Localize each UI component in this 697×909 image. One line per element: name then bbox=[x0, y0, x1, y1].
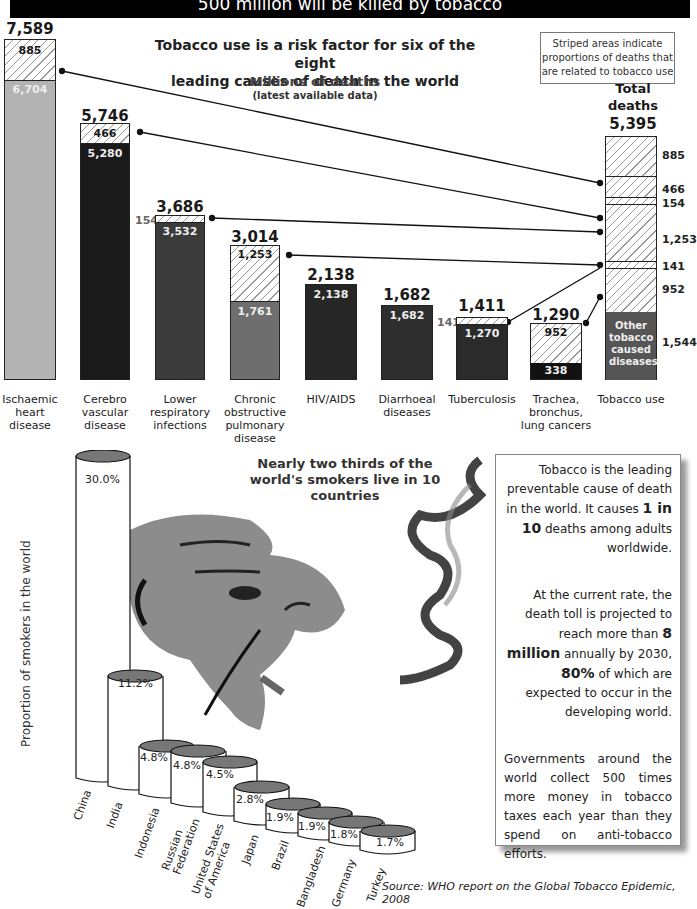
tobacco-seg-tuberculosis bbox=[606, 262, 656, 269]
category-label: Cerebro vascular disease bbox=[69, 393, 141, 432]
bar-cerebrovascular: 466 5,280 bbox=[80, 123, 130, 380]
tobacco-heading: Total deaths 5,395 bbox=[598, 80, 668, 133]
tobacco-value-952: 952 bbox=[662, 283, 685, 296]
tobacco-value-1544: 1,544 bbox=[662, 336, 697, 349]
pct-label-germany: 1.8% bbox=[330, 828, 358, 841]
source-note: Source: WHO report on the Global Tobacco… bbox=[382, 880, 690, 906]
tobacco-seg-cerebro bbox=[606, 177, 656, 198]
pct-label-japan: 2.8% bbox=[236, 793, 264, 806]
category-label: Tuberculosis bbox=[446, 393, 518, 406]
tobacco-heading-line2: deaths bbox=[598, 97, 668, 114]
segment-label: 466 bbox=[81, 127, 129, 140]
category-label: Trachea, bronchus, lung cancers bbox=[520, 393, 592, 432]
bar-tobacco-use: Other tobacco caused diseases bbox=[605, 136, 657, 380]
segment-label: 2,138 bbox=[306, 288, 356, 301]
bar-segment-tobacco: 1,253 bbox=[231, 246, 279, 302]
bar-hiv: 2,138 bbox=[305, 284, 357, 380]
bar-segment-other: 338 bbox=[531, 363, 581, 379]
info-text: deaths among adults worldwide. bbox=[541, 522, 672, 555]
category-label: Lower respiratory infections bbox=[144, 393, 216, 432]
bar-total-tuberculosis: 1,411 bbox=[456, 297, 508, 315]
pct-label-india: 11.2% bbox=[118, 677, 153, 690]
bar-total-lung-cancers: 1,290 bbox=[530, 306, 582, 324]
segment-label: 1,270 bbox=[457, 327, 507, 340]
tobacco-seg-other: Other tobacco caused diseases bbox=[606, 312, 656, 380]
bar-segment-tobacco: 885 bbox=[5, 40, 55, 81]
info-text: At the current rate, the death toll is p… bbox=[525, 588, 672, 641]
info-paragraph-3: Governments around the world collect 500… bbox=[504, 750, 672, 864]
tobacco-value-885: 885 bbox=[662, 149, 685, 162]
segment-label: 885 bbox=[5, 44, 55, 57]
pct-label-russia: 4.8% bbox=[173, 759, 201, 772]
pct-label-bangladesh: 1.9% bbox=[298, 820, 326, 833]
bar-lung-cancers: 952 338 bbox=[530, 323, 582, 380]
bar-total-copd: 3,014 bbox=[230, 228, 280, 246]
info-paragraph-1: Tobacco is the leading preventable cause… bbox=[504, 461, 672, 558]
chart-title-line1: Tobacco use is a risk factor for six of … bbox=[150, 36, 480, 72]
segment-label: 1,253 bbox=[231, 248, 279, 261]
bar-diarrhoeal: 1,682 bbox=[381, 305, 433, 380]
bar-copd: 1,253 1,761 bbox=[230, 245, 280, 380]
segment-label: 3,532 bbox=[156, 225, 204, 238]
tobacco-value-141: 141 bbox=[662, 260, 685, 273]
category-label: Ischaemic heart disease bbox=[0, 393, 66, 432]
tobacco-seg-ischaemic bbox=[606, 137, 656, 177]
unit-note: (latest available data) bbox=[200, 90, 430, 101]
tobacco-seg-lung bbox=[606, 269, 656, 312]
category-label: Diarrhoeal diseases bbox=[371, 393, 443, 419]
segment-label: 6,704 bbox=[5, 83, 55, 96]
segment-label: 952 bbox=[531, 326, 581, 339]
bar-segment-tobacco bbox=[156, 216, 204, 223]
tobacco-seg-respiratory bbox=[606, 198, 656, 205]
page-title: 500 million will be killed by tobacco bbox=[10, 0, 690, 11]
pct-label-brazil: 1.9% bbox=[266, 811, 294, 824]
tobacco-value-466: 466 bbox=[662, 183, 685, 196]
pct-label-usa: 4.5% bbox=[206, 768, 234, 781]
bar-total-lower-respiratory: 3,686 bbox=[155, 198, 205, 216]
bar-total-diarrhoeal: 1,682 bbox=[381, 286, 433, 304]
pct-label-china: 30.0% bbox=[85, 473, 120, 486]
segment-label: 1,682 bbox=[382, 309, 432, 322]
info-box: Tobacco is the leading preventable cause… bbox=[495, 454, 681, 846]
tobacco-value-154: 154 bbox=[662, 197, 685, 210]
info-text: of which are expected to occur in the de… bbox=[525, 667, 672, 719]
category-label: Chronic obstructive pulmonary disease bbox=[219, 393, 291, 445]
bar-segment-tobacco bbox=[457, 318, 507, 325]
y-axis-label: Proportion of smokers in the world bbox=[19, 547, 33, 747]
info-highlight: 80% bbox=[561, 665, 595, 681]
pct-label-indonesia: 4.8% bbox=[140, 751, 168, 764]
tobacco-heading-line1: Total bbox=[598, 80, 668, 97]
info-paragraph-2: At the current rate, the death toll is p… bbox=[504, 586, 672, 722]
title-bar: 500 million will be killed by tobacco bbox=[10, 0, 690, 18]
pct-label-turkey: 1.7% bbox=[376, 836, 404, 849]
segment-label: 5,280 bbox=[81, 147, 129, 160]
category-label: Tobacco use bbox=[595, 393, 667, 406]
tobacco-value-1253: 1,253 bbox=[662, 233, 697, 246]
bar-tuberculosis: 1,270 bbox=[456, 317, 508, 380]
bar-total-ischaemic: 7,589 bbox=[4, 20, 56, 38]
unit-label: Millions of deaths bbox=[200, 74, 430, 89]
category-label: HIV/AIDS bbox=[295, 393, 367, 406]
segment-label: 338 bbox=[531, 364, 581, 377]
country-label: Germany bbox=[330, 857, 359, 909]
bar-total-hiv: 2,138 bbox=[305, 266, 357, 284]
bar-ischaemic: 885 6,704 bbox=[4, 39, 56, 380]
tobacco-total: 5,395 bbox=[598, 116, 668, 133]
bar-segment-tobacco: 466 bbox=[81, 124, 129, 144]
info-text: annually by 2030, bbox=[560, 647, 672, 661]
legend-note: Striped areas indicate proportions of de… bbox=[540, 32, 675, 84]
tobacco-seg-copd bbox=[606, 205, 656, 262]
bar-lower-respiratory: 3,532 bbox=[155, 215, 205, 380]
segment-label: 1,761 bbox=[231, 305, 279, 318]
